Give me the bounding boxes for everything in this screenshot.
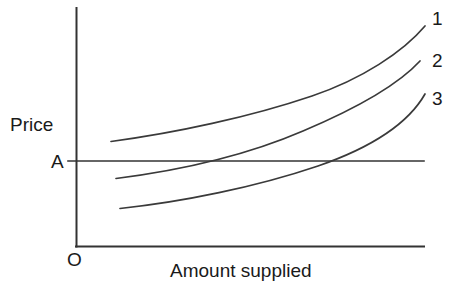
- curve-label-2: 2: [432, 51, 443, 70]
- origin-label: O: [67, 250, 82, 269]
- curve-label-1: 1: [432, 9, 443, 28]
- supply-curve-3: [120, 94, 425, 209]
- chart-canvas: [0, 0, 449, 287]
- supply-curve-figure: Price A O Amount supplied 1 2 3: [0, 0, 449, 287]
- curve-label-3: 3: [432, 89, 443, 108]
- supply-curve-1: [111, 26, 425, 142]
- price-level-a-label: A: [51, 152, 64, 171]
- y-axis-title: Price: [10, 115, 53, 134]
- x-axis-title: Amount supplied: [170, 261, 312, 280]
